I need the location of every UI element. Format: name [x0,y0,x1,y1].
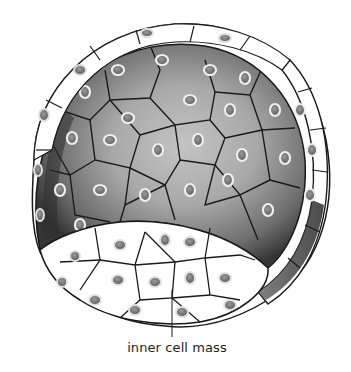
blastocyst-diagram: inner cell mass [0,0,351,372]
blastocyst-illustration [0,0,351,372]
inner-cell-mass-label: inner cell mass [117,340,237,355]
